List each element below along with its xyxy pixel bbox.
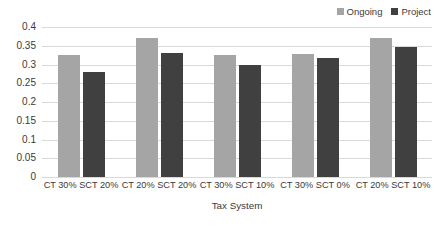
legend-label-ongoing: Ongoing [347, 7, 383, 17]
bar-project[interactable] [161, 53, 183, 177]
bar-ongoing[interactable] [370, 38, 392, 177]
bar-group [354, 27, 432, 177]
y-axis: 0.4 0.35 0.3 0.25 0.2 0.15 0.1 0.05 0 [0, 27, 40, 177]
x-axis: CT 30% SCT 20% CT 20% SCT 20% CT 30% SCT… [42, 180, 432, 191]
bar-group [198, 27, 276, 177]
legend-swatch-ongoing [337, 8, 344, 15]
bar-project[interactable] [317, 58, 339, 177]
x-tick-label: CT 30% SCT 0% [276, 180, 354, 191]
y-tick-label: 0.3 [22, 60, 36, 70]
y-tick-label: 0 [30, 172, 36, 182]
legend-entry-project[interactable]: Project [391, 7, 431, 17]
x-tick-label: CT 20% SCT 20% [120, 180, 198, 191]
y-tick-label: 0.35 [17, 41, 36, 51]
y-tick-label: 0.05 [17, 153, 36, 163]
legend-swatch-project [391, 8, 398, 15]
y-tick-label: 0.4 [22, 22, 36, 32]
x-axis-title: Tax System [42, 200, 432, 211]
bar-group [120, 27, 198, 177]
chart-legend: Ongoing Project [337, 7, 432, 17]
bar-ongoing[interactable] [136, 38, 158, 177]
x-tick-label: CT 20% SCT 10% [354, 180, 432, 191]
y-tick-label: 0.25 [17, 78, 36, 88]
bar-project[interactable] [239, 65, 261, 177]
axis-baseline [42, 177, 432, 178]
bar-project[interactable] [83, 72, 105, 177]
x-tick-label: CT 30% SCT 10% [198, 180, 276, 191]
legend-entry-ongoing[interactable]: Ongoing [337, 7, 383, 17]
bar-project[interactable] [395, 47, 417, 178]
x-tick-label: CT 30% SCT 20% [42, 180, 120, 191]
bars-layer [42, 27, 432, 177]
bar-ongoing[interactable] [58, 55, 80, 177]
y-tick-label: 0.1 [22, 135, 36, 145]
legend-label-project: Project [401, 7, 431, 17]
y-tick-label: 0.2 [22, 97, 36, 107]
bar-group [42, 27, 120, 177]
bar-group [276, 27, 354, 177]
bar-ongoing[interactable] [292, 54, 314, 177]
y-tick-label: 0.15 [17, 116, 36, 126]
bar-chart: Ongoing Project 0.4 0.35 0.3 0.25 0.2 0.… [0, 0, 439, 228]
bar-ongoing[interactable] [214, 55, 236, 177]
plot-area [42, 27, 432, 177]
